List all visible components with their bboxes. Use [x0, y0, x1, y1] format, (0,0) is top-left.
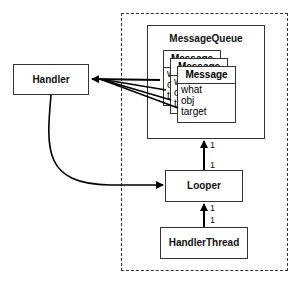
connectors: [0, 0, 299, 283]
handler-to-looper-arrow: [49, 95, 163, 185]
multiplicity-label: 1: [210, 160, 215, 170]
multiplicity-label: 1: [210, 215, 215, 225]
multiplicity-label: 1: [210, 203, 215, 213]
multiplicity-label: 1: [210, 140, 215, 150]
target-to-handler-arrow: [100, 79, 178, 108]
